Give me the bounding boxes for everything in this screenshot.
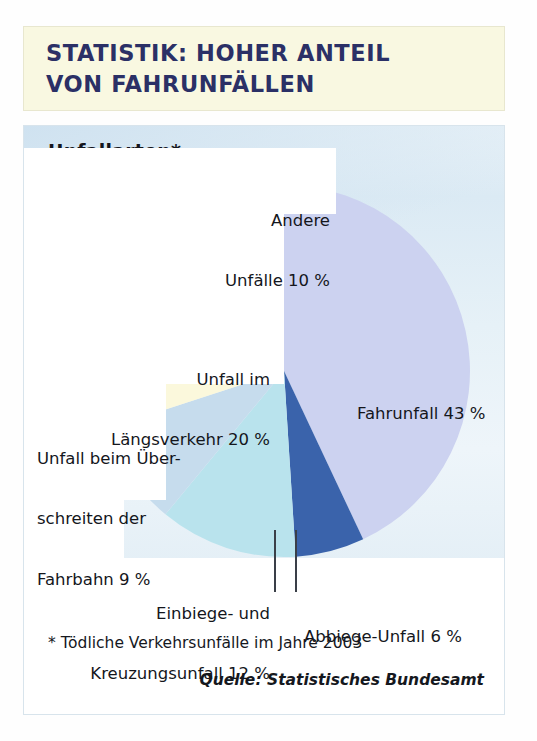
chart-footnote: * Tödliche Verkehrsunfälle im Jahre 2003 xyxy=(48,634,362,652)
banner-title-line-2: VON FAHRUNFÄLLEN xyxy=(46,71,315,97)
label-ueber-line-1: Unfall beim Über- xyxy=(37,449,237,469)
label-einbiege-line-1: Einbiege- und xyxy=(52,604,270,624)
label-laengs-line-1: Unfall im xyxy=(50,370,270,390)
label-andere-line-2: Unfälle 10 % xyxy=(144,271,330,291)
infographic-root: STATISTIK: HOHER ANTEIL VON FAHRUNFÄLLEN… xyxy=(0,0,537,741)
label-andere-line-1: Andere xyxy=(144,211,330,231)
label-ueber-line-2: schreiten der xyxy=(37,509,237,529)
label-andere-unfaelle: Andere Unfälle 10 % xyxy=(144,170,330,332)
label-fahrunfall-text: Fahrunfall 43 % xyxy=(357,404,505,424)
leader-line-einbiege xyxy=(274,530,276,592)
chart-source: Quelle: Statistisches Bundesamt xyxy=(200,671,484,689)
leader-line-abbiege xyxy=(295,530,297,592)
label-fahrunfall: Fahrunfall 43 % xyxy=(357,363,505,464)
banner-title-line-1: STATISTIK: HOHER ANTEIL xyxy=(46,40,390,66)
title-banner: STATISTIK: HOHER ANTEIL VON FAHRUNFÄLLEN xyxy=(23,26,505,111)
chart-card: Unfallarten* Andere Unfälle 10 % Unfall … xyxy=(23,125,505,715)
